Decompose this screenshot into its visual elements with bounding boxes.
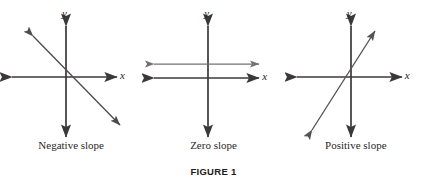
figure-caption: FIGURE 1 xyxy=(0,166,427,177)
panel-caption-negative-slope: Negative slope xyxy=(0,139,142,152)
panel-zero-slope: x y Zero slope xyxy=(142,0,284,160)
negative-slope-line xyxy=(33,36,120,125)
y-axis-label-positive: y xyxy=(347,8,352,19)
x-axis-label-zero: x xyxy=(262,71,267,82)
x-axis-label-positive: x xyxy=(405,70,410,81)
figure-1: x y Negative slope xyxy=(0,0,427,187)
panel-positive-slope: x y Positive slope xyxy=(285,0,427,160)
panel-caption-zero-slope: Zero slope xyxy=(142,139,284,152)
panel-row: x y Negative slope xyxy=(0,0,427,160)
panel-caption-positive-slope: Positive slope xyxy=(285,139,427,152)
panel-negative-slope: x y Negative slope xyxy=(0,0,142,160)
y-axis-label-zero: y xyxy=(204,8,209,19)
x-axis-label-negative: x xyxy=(120,70,125,81)
positive-slope-line xyxy=(312,31,375,130)
y-axis-label-negative: y xyxy=(62,8,67,19)
